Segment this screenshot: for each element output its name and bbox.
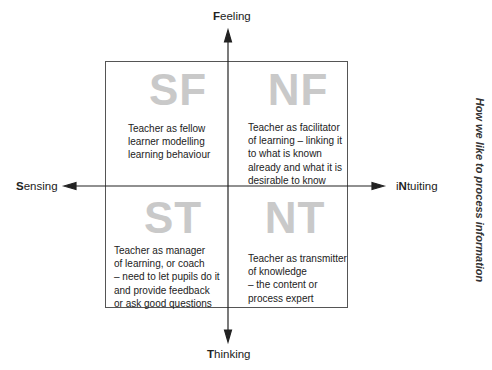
- quadrant-code: SF: [118, 68, 238, 112]
- quadrant-code: NF: [238, 68, 358, 112]
- quadrant-code: ST: [108, 196, 228, 240]
- quadrant-text: Teacher as fellow learner modelling lear…: [118, 122, 238, 162]
- axis-label-thinking: Thinking: [207, 348, 250, 360]
- quadrant-code: NT: [233, 196, 353, 240]
- quadrant-nt: NT Teacher as transmitter of knowledge –…: [233, 196, 353, 305]
- quadrant-nf: NF Teacher as facilitator of learning – …: [238, 68, 358, 187]
- quadrant-st: ST Teacher as manager of learning, or co…: [108, 196, 228, 310]
- quadrant-text: Teacher as transmitter of knowledge – th…: [233, 252, 353, 305]
- axis-label-intuiting: iNtuiting: [396, 180, 438, 192]
- arrow-down-icon: [225, 330, 232, 342]
- quadrant-text: Teacher as manager of learning, or coach…: [108, 244, 228, 310]
- arrow-right-icon: [372, 183, 384, 190]
- arrow-up-icon: [225, 30, 232, 42]
- arrow-left-icon: [64, 183, 76, 190]
- side-label: How we like to process information: [474, 98, 486, 283]
- quadrant-text: Teacher as facilitator of learning – lin…: [238, 121, 358, 187]
- quadrant-sf: SF Teacher as fellow learner modelling l…: [118, 68, 238, 162]
- axis-label-sensing: Sensing: [16, 180, 58, 192]
- axis-label-feeling: Feeling: [213, 10, 251, 22]
